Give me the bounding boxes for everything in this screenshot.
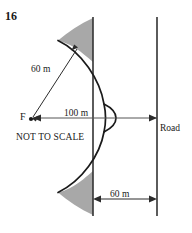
question-number-label: 16 (5, 10, 17, 22)
span-arrowhead-right (149, 115, 157, 122)
focus-point-label: F (20, 112, 26, 122)
offset-arrowhead-left (93, 196, 101, 203)
offset-arrowhead-right (149, 196, 157, 203)
focus-point-dot (29, 117, 33, 121)
focal-radius-line (33, 49, 77, 117)
road-label: Road (160, 124, 180, 134)
offset-distance-label: 60 m (110, 190, 129, 200)
geometry-figure: 16 60 m F 100 m NOT TO SCALE Road 60 m (0, 0, 192, 233)
figure-drawing-canvas (0, 0, 192, 233)
bottom-shaded-region (58, 171, 93, 215)
not-to-scale-note: NOT TO SCALE (16, 133, 84, 143)
focal-distance-label: 60 m (31, 65, 50, 75)
span-distance-label: 100 m (64, 109, 88, 119)
top-shaded-region (58, 18, 93, 62)
